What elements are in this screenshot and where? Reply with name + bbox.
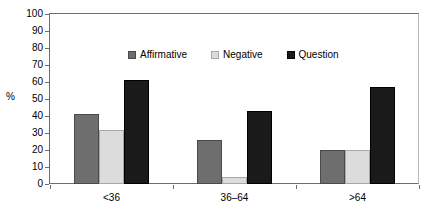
legend-label: Question xyxy=(299,50,339,60)
y-axis-tick-label: 70 xyxy=(10,60,43,70)
y-axis-tick-label: 40 xyxy=(10,111,43,121)
legend-entry-negative: Negative xyxy=(211,50,262,60)
question-swatch-icon xyxy=(287,51,295,59)
y-axis-tick-label: 60 xyxy=(10,77,43,87)
x-axis-label-1: 36–64 xyxy=(221,193,249,203)
y-axis-tick-label: 0 xyxy=(10,179,43,189)
x-axis-label-2: >64 xyxy=(349,193,366,203)
bar-question-0 xyxy=(124,80,149,184)
y-axis-tick-label: 50 xyxy=(10,94,43,104)
bar-chart: % 0102030405060708090100 <3636–64>64 Aff… xyxy=(0,0,437,216)
y-axis-tick-label: 20 xyxy=(10,145,43,155)
x-axis-tick-mark xyxy=(296,185,297,189)
chart-legend: AffirmativeNegativeQuestion xyxy=(128,50,339,60)
bar-negative-0 xyxy=(99,130,124,184)
bar-affirmative-0 xyxy=(74,114,99,184)
bars-layer xyxy=(50,14,419,184)
x-axis-tick-mark xyxy=(173,185,174,189)
y-axis-tick-label: 30 xyxy=(10,128,43,138)
x-axis-tick-mark xyxy=(419,185,420,189)
negative-swatch-icon xyxy=(211,51,219,59)
legend-label: Affirmative xyxy=(140,50,187,60)
y-axis-tick-label: 10 xyxy=(10,162,43,172)
y-axis-tick-label: 90 xyxy=(10,26,43,36)
y-axis-tick-mark xyxy=(45,184,49,185)
bar-affirmative-1 xyxy=(197,140,222,184)
bar-question-1 xyxy=(247,111,272,184)
legend-label: Negative xyxy=(223,50,262,60)
x-axis-label-0: <36 xyxy=(103,193,120,203)
x-axis-tick-mark xyxy=(50,185,51,189)
legend-entry-affirmative: Affirmative xyxy=(128,50,187,60)
legend-entry-question: Question xyxy=(287,50,339,60)
y-axis-tick-label: 80 xyxy=(10,43,43,53)
bar-affirmative-2 xyxy=(320,150,345,184)
y-axis-tick-label: 100 xyxy=(10,9,43,19)
affirmative-swatch-icon xyxy=(128,51,136,59)
bar-negative-2 xyxy=(345,150,370,184)
bar-question-2 xyxy=(370,87,395,184)
bar-negative-1 xyxy=(222,177,247,184)
